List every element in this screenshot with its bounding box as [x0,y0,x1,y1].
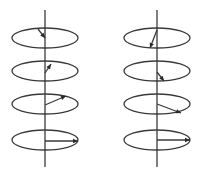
right-stack [124,10,190,167]
arrowhead-icon [150,43,154,48]
left-stack [12,10,78,167]
coaxial-loops-diagram [0,0,202,176]
